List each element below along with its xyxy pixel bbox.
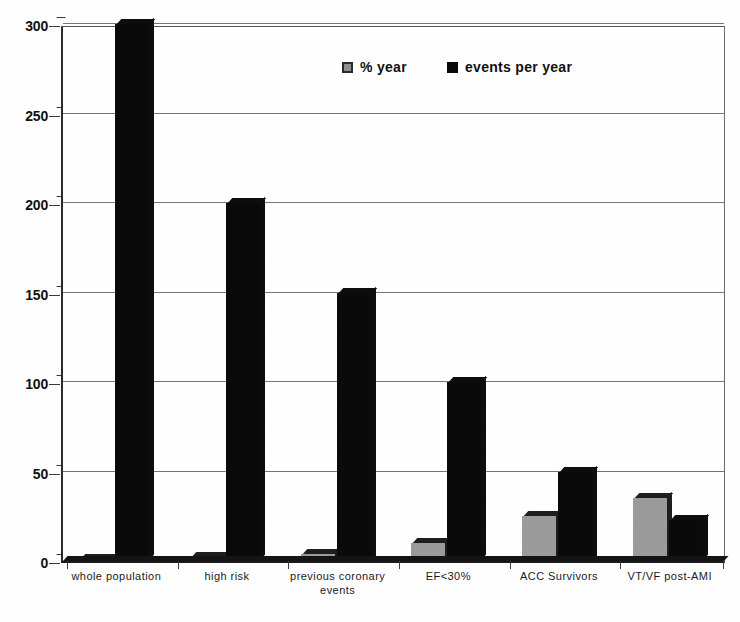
legend-entry: % year	[342, 59, 407, 75]
bar-face	[522, 516, 556, 561]
x-tick-mark	[510, 561, 511, 569]
bar-side	[592, 465, 597, 559]
bar-top	[117, 19, 156, 24]
bar-events-per-year	[447, 382, 481, 561]
x-axis: whole populationhigh riskprevious corona…	[61, 569, 725, 621]
bar-group	[506, 27, 617, 561]
bar-group	[284, 27, 395, 561]
legend: % yearevents per year	[342, 59, 572, 75]
bar-side	[260, 197, 265, 560]
bar-top	[413, 538, 452, 543]
bar-pct-year	[522, 516, 556, 561]
x-tick-mark	[399, 561, 400, 569]
bar-side	[149, 18, 154, 560]
bar-top	[634, 493, 673, 498]
legend-entry: events per year	[447, 59, 572, 75]
y-tick-label-250: 250	[6, 108, 48, 124]
y-tick-label-50: 50	[6, 466, 48, 482]
bar-top	[302, 549, 341, 554]
legend-swatch-gray-icon	[342, 62, 353, 73]
bar-face	[337, 293, 371, 562]
y-tick-mark-100	[49, 384, 60, 385]
x-tick-mark	[620, 561, 621, 569]
y-tick-label-150: 150	[6, 287, 48, 303]
bar-pct-year	[633, 498, 667, 561]
legend-swatch-black-icon	[447, 62, 458, 73]
x-tick-mark	[288, 561, 289, 569]
bar-top	[670, 515, 709, 520]
bar-top	[524, 511, 563, 516]
y-tick-label-300: 300	[6, 18, 48, 34]
bar-events-per-year	[115, 24, 149, 561]
bar-events-per-year	[669, 520, 703, 561]
bar-group	[63, 27, 174, 561]
bar-side	[703, 514, 708, 560]
bar-events-per-year	[226, 203, 260, 561]
bar-side	[371, 286, 376, 559]
y-tick-label-0: 0	[6, 555, 48, 571]
bar-face	[633, 498, 667, 561]
x-tick-label: VT/VF post-AMI	[602, 569, 737, 583]
plot-area	[61, 26, 725, 563]
x-tick-mark	[178, 561, 179, 569]
bar-events-per-year	[337, 293, 371, 562]
y-tick-label-200: 200	[6, 197, 48, 213]
y-tick-depth-300	[49, 17, 66, 26]
bar-group	[174, 27, 285, 561]
bar-group	[395, 27, 506, 561]
y-tick-label-100: 100	[6, 376, 48, 392]
legend-label: % year	[360, 59, 407, 75]
x-tick-mark	[67, 561, 68, 569]
bar-face	[669, 520, 703, 561]
y-tick-mark-0	[49, 563, 60, 564]
y-axis: 050100150200250300	[0, 26, 48, 563]
bar-top	[228, 198, 267, 203]
bar-face	[447, 382, 481, 561]
bar-events-per-year	[558, 472, 592, 562]
bar-face	[115, 24, 149, 561]
bar-top	[338, 288, 377, 293]
bar-chart: 050100150200250300 % yearevents per year…	[0, 0, 740, 622]
x-tick-mark	[723, 561, 724, 569]
bar-top	[449, 377, 488, 382]
bar-face	[226, 203, 260, 561]
bars-layer	[63, 27, 724, 561]
bar-group	[616, 27, 727, 561]
bar-top	[560, 467, 599, 472]
gridline-300	[63, 23, 724, 24]
bar-face	[558, 472, 592, 562]
y-tick-mark-300	[49, 26, 60, 27]
legend-label: events per year	[465, 59, 572, 75]
axis-floor	[63, 556, 729, 561]
bar-side	[481, 376, 486, 560]
y-tick-mark-200	[49, 205, 60, 206]
